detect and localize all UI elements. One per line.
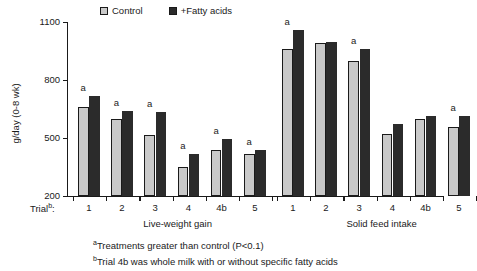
chart-footnotes: aTreatments greater than control (P<0.1)… (93, 236, 338, 268)
bar-fatty-acids (293, 30, 304, 196)
y-axis-tick: 1100 (63, 22, 68, 23)
significance-marker: a (180, 141, 185, 151)
x-axis-tick (173, 196, 174, 201)
y-axis-line (67, 22, 68, 196)
significance-marker: a (451, 103, 456, 113)
significance-marker: a (247, 137, 252, 147)
bar-control (211, 150, 222, 196)
x-axis-tick-label: 1 (86, 202, 91, 213)
y-axis-tick-label: 500 (44, 132, 60, 143)
y-axis-tick-label: 1100 (40, 16, 60, 27)
footnote: bTrial 4b was whole milk with or without… (93, 252, 338, 268)
bar-control (348, 61, 359, 196)
bar-fatty-acids (360, 49, 371, 196)
x-axis-tick (73, 196, 74, 201)
y-axis-tick-label: 200 (44, 190, 60, 201)
significance-marker: a (114, 98, 119, 108)
x-axis-tick-label: 5 (456, 202, 461, 213)
x-axis-tick-label: 2 (323, 202, 328, 213)
x-axis-tick-label: 3 (357, 202, 362, 213)
bar-control (111, 119, 122, 196)
x-axis-tick-label: 4b (420, 202, 431, 213)
x-axis-tick-label: 5 (252, 202, 257, 213)
x-axis-tick (377, 196, 378, 201)
x-axis-tick (139, 196, 140, 201)
x-axis-tick (443, 196, 444, 201)
y-axis-tick: 800 (63, 80, 68, 81)
x-axis-tick-label: 4 (186, 202, 191, 213)
x-axis-tick (343, 196, 344, 201)
x-axis-tick-label: 3 (153, 202, 158, 213)
bar-control (178, 167, 189, 196)
bar-fatty-acids (222, 139, 233, 196)
x-axis-tick (277, 196, 278, 201)
bar-control (382, 134, 393, 196)
bar-control (78, 107, 89, 196)
x-axis-tick (206, 196, 207, 201)
bar-fatty-acids (326, 42, 337, 196)
footnote-superscript: a (93, 239, 97, 246)
bar-control (315, 43, 326, 196)
x-axis-line (67, 196, 444, 197)
y-axis-tick: 500 (63, 138, 68, 139)
significance-marker: a (351, 36, 356, 46)
bar-fatty-acids (393, 124, 404, 196)
bar-control (144, 135, 155, 196)
footnote-superscript: b (93, 255, 97, 262)
significance-marker: a (285, 17, 290, 27)
group-label: Solid feed intake (346, 218, 416, 229)
chart-legend: Control +Fatty acids (100, 6, 232, 16)
legend-label-fatty-acids: +Fatty acids (181, 6, 232, 16)
y-axis-label: g/day (0-8 wk) (10, 54, 21, 174)
bar-fatty-acids (89, 96, 100, 196)
bar-fatty-acids (459, 116, 470, 196)
bar-fatty-acids (122, 111, 133, 196)
x-axis-tick-label: 4 (390, 202, 395, 213)
x-axis-tick (410, 196, 411, 201)
x-axis-tick (239, 196, 240, 201)
x-axis-tick (272, 196, 273, 201)
plot-area: 2005008001100aaaaaaaaa (68, 22, 444, 196)
significance-marker: a (213, 126, 218, 136)
group-label: Live-weight gain (143, 218, 212, 229)
bar-control (244, 154, 255, 196)
significance-marker: a (147, 99, 152, 109)
bar-fatty-acids (426, 116, 437, 196)
legend-entry-fatty-acids: +Fatty acids (169, 6, 232, 16)
x-axis-tick-label: 2 (119, 202, 124, 213)
y-axis-tick: 200 (63, 196, 68, 197)
legend-swatch-control-icon (100, 7, 108, 15)
bar-control (415, 119, 426, 196)
legend-swatch-fatty-acids-icon (169, 7, 177, 15)
bar-control (282, 49, 293, 196)
significance-marker: a (81, 83, 86, 93)
bar-fatty-acids (189, 154, 200, 196)
x-axis-tick-label: 1 (290, 202, 295, 213)
x-axis-tick (310, 196, 311, 201)
legend-entry-control: Control (100, 6, 143, 16)
trial-prefix-superscript: b (48, 202, 52, 209)
bar-fatty-acids (255, 150, 266, 196)
x-axis-tick-label: 4b (216, 202, 227, 213)
x-axis-tick (106, 196, 107, 201)
footnote: aTreatments greater than control (P<0.1) (93, 236, 338, 252)
legend-label-control: Control (112, 6, 143, 16)
bar-fatty-acids (156, 112, 167, 196)
y-axis-tick-label: 800 (44, 74, 60, 85)
bar-control (448, 127, 459, 196)
trial-axis-prefix: Trialb: (30, 202, 55, 214)
